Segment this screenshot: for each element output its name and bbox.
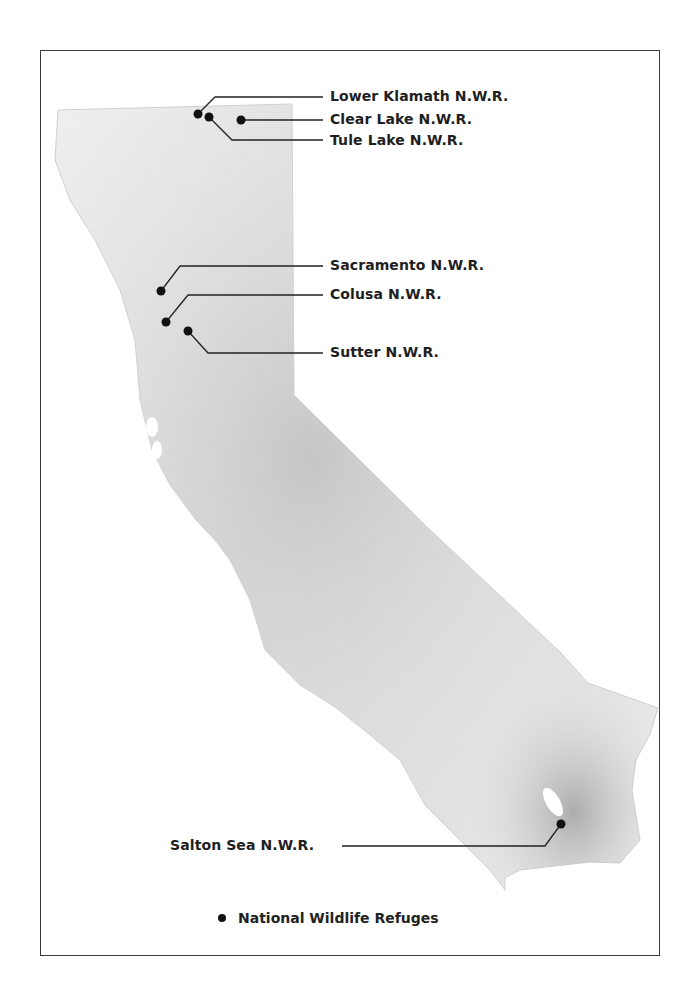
- marker-colusa: [162, 318, 171, 327]
- state-outline: [55, 104, 658, 890]
- legend-label: National Wildlife Refuges: [238, 910, 439, 926]
- marker-clear-lake: [237, 116, 246, 125]
- san-francisco-bay: [146, 417, 158, 437]
- label-colusa: Colusa N.W.R.: [330, 286, 442, 302]
- label-sutter: Sutter N.W.R.: [330, 344, 439, 360]
- legend-marker-icon: [218, 914, 226, 922]
- marker-tule-lake: [205, 113, 214, 122]
- marker-salton-sea: [557, 820, 566, 829]
- marker-sutter: [184, 327, 193, 336]
- san-pablo-bay: [152, 441, 162, 459]
- label-clear-lake: Clear Lake N.W.R.: [330, 111, 472, 127]
- label-sacramento: Sacramento N.W.R.: [330, 257, 484, 273]
- label-salton-sea: Salton Sea N.W.R.: [170, 837, 314, 853]
- marker-sacramento: [157, 287, 166, 296]
- label-lower-klamath: Lower Klamath N.W.R.: [330, 88, 508, 104]
- marker-lower-klamath: [194, 110, 203, 119]
- legend: National Wildlife Refuges: [218, 910, 439, 926]
- california-map: [0, 0, 691, 1006]
- label-tule-lake: Tule Lake N.W.R.: [330, 132, 463, 148]
